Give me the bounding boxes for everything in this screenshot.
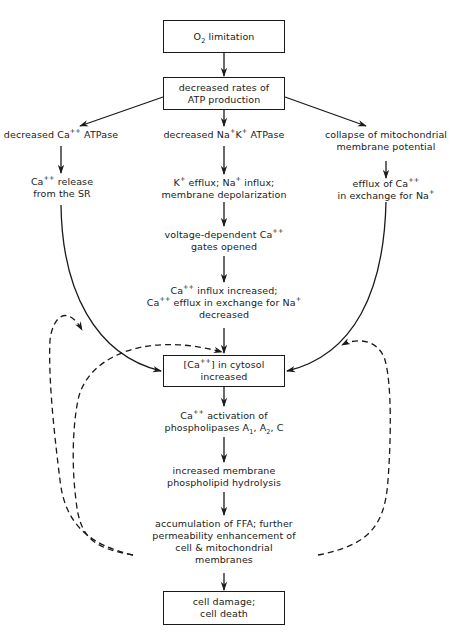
- node-kefflux-line-2: membrane depolarization: [154, 189, 294, 201]
- node-atp-line-2: ATP production: [188, 94, 261, 106]
- node-phospholipases: Ca++ activation of phospholipases A1, A2…: [144, 410, 304, 434]
- node-cytosol-ca: [Ca++] in cytosol increased: [163, 355, 285, 387]
- node-celldeath-line-1: cell damage;: [193, 596, 256, 608]
- node-kefflux-line-1: K+ efflux; Na+ influx;: [154, 177, 294, 189]
- node-ca-release-sr: Ca++ release from the SR: [20, 176, 104, 200]
- node-pl-line-1: Ca++ activation of: [144, 410, 304, 422]
- node-mito-line-1: collapse of mitochondrial: [318, 129, 454, 141]
- node-celldeath-line-2: cell death: [200, 608, 248, 620]
- node-hydrolysis-line-2: phospholipid hydrolysis: [144, 477, 304, 489]
- node-ffa-line-2: permeability enhancement of: [134, 530, 314, 542]
- node-ca-influx: Ca++ influx increased; Ca++ efflux in ex…: [134, 285, 314, 321]
- node-mito-line-2: membrane potential: [318, 141, 454, 153]
- node-atp-production: decreased rates of ATP production: [163, 77, 285, 110]
- arrow-atp-to-mito: [285, 97, 366, 126]
- node-sr-line-2: from the SR: [20, 188, 104, 200]
- node-ca-efflux-exchange: efflux of Ca++ in exchange for Na+: [330, 178, 442, 202]
- node-cytosol-line-1: [Ca++] in cytosol: [184, 359, 265, 371]
- node-voltage-gates: voltage-dependent Ca++ gates opened: [154, 229, 294, 253]
- node-caefflux-line-1: efflux of Ca++: [330, 178, 442, 190]
- node-pl-line-2: phospholipases A1, A2, C: [144, 422, 304, 434]
- arrow-atp-to-ca-atpase: [80, 97, 163, 126]
- node-ffa-line-4: membranes: [134, 554, 314, 566]
- node-o2-limitation: O2 limitation: [163, 20, 285, 53]
- node-hydrolysis-line-1: increased membrane: [144, 465, 304, 477]
- node-hydrolysis: increased membrane phospholipid hydrolys…: [144, 465, 304, 489]
- node-ffa-line-3: cell & mitochondrial: [134, 542, 314, 554]
- node-mito-collapse: collapse of mitochondrial membrane poten…: [318, 129, 454, 153]
- node-cainflux-line-3: decreased: [134, 309, 314, 321]
- node-cell-death: cell damage; cell death: [163, 591, 285, 625]
- node-nak-atpase: decreased Na+K+ ATPase: [154, 129, 294, 141]
- node-ffa: accumulation of FFA; further permeabilit…: [134, 518, 314, 566]
- node-vgates-line-2: gates opened: [154, 241, 294, 253]
- node-atp-line-1: decreased rates of: [179, 82, 270, 94]
- node-sr-line-1: Ca++ release: [20, 176, 104, 188]
- node-ca-atpase: decreased Ca++ ATPase: [0, 129, 122, 141]
- dashed-feedback-ffa-to-sr-path: [50, 316, 133, 555]
- node-k-efflux: K+ efflux; Na+ influx; membrane depolari…: [154, 177, 294, 201]
- node-ffa-line-1: accumulation of FFA; further: [134, 518, 314, 530]
- dashed-feedback-ffa-to-caefflux-path: [318, 341, 390, 555]
- node-cytosol-line-2: increased: [201, 371, 248, 383]
- node-caefflux-line-2: in exchange for Na+: [330, 190, 442, 202]
- node-cainflux-line-2: Ca++ efflux in exchange for Na+: [134, 297, 314, 309]
- node-vgates-line-1: voltage-dependent Ca++: [154, 229, 294, 241]
- node-o2-limitation-label: O2 limitation: [194, 31, 255, 43]
- flowchart-diagram: O2 limitation decreased rates of ATP pro…: [0, 0, 459, 641]
